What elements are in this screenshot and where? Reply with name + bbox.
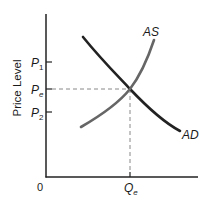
p1-label: P1 (31, 56, 44, 72)
as-ad-diagram: AS AD Price Level P1 Pe P2 0 Qe (0, 0, 210, 205)
y-axis-title: Price Level (11, 60, 23, 117)
as-curve (81, 40, 154, 127)
origin-label: 0 (37, 181, 43, 193)
p2-label: P2 (31, 106, 44, 122)
qe-label: Qe (124, 181, 138, 197)
ad-label: AD (181, 128, 199, 142)
as-label: AS (142, 25, 159, 39)
pe-label: Pe (31, 83, 44, 99)
